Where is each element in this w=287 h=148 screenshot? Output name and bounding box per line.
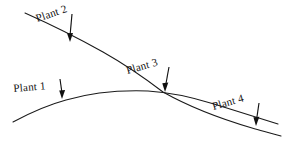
plant4-arrow [253, 103, 259, 126]
plant3-arrow-head [162, 83, 168, 92]
plant3-arrow [162, 67, 169, 92]
plant2-arrow [67, 14, 73, 42]
plant2-arrow-shaft [70, 14, 72, 36]
plant2-arrow-head [67, 33, 73, 42]
descending-curve [25, 13, 281, 136]
plant-curves-diagram: Plant 1 Plant 2 Plant 3 Plant 4 [0, 0, 287, 148]
plant1-arrow [59, 79, 65, 99]
plant1-arrow-head [59, 90, 65, 99]
plant4-arrow-head [253, 117, 259, 126]
